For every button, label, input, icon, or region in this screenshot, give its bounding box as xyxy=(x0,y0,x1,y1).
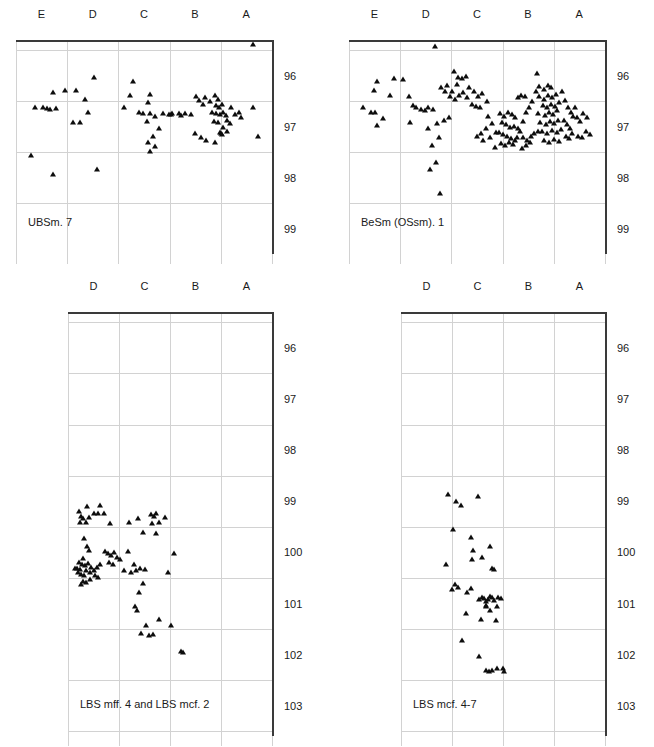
data-point-marker xyxy=(91,74,97,79)
data-point-marker xyxy=(487,135,493,140)
data-point-marker xyxy=(469,556,475,561)
column-label-a: A xyxy=(576,280,584,292)
data-point-marker xyxy=(444,82,450,87)
data-point-marker xyxy=(212,140,218,145)
gridline-horizontal xyxy=(16,152,272,153)
data-point-marker xyxy=(494,604,500,609)
data-point-marker xyxy=(255,134,261,139)
data-point-marker xyxy=(512,114,518,119)
data-point-marker xyxy=(62,87,68,92)
data-point-marker xyxy=(145,100,151,105)
y-tick-label-96: 96 xyxy=(617,342,629,354)
data-point-marker xyxy=(28,152,34,157)
data-point-marker xyxy=(85,109,91,114)
data-point-marker xyxy=(97,561,103,566)
gridline-horizontal xyxy=(401,680,605,681)
data-point-marker xyxy=(94,166,100,171)
data-point-marker xyxy=(587,131,593,136)
column-label-e: E xyxy=(38,8,46,20)
data-point-marker xyxy=(168,623,174,628)
axis-right-line xyxy=(272,40,274,254)
data-point-marker xyxy=(149,520,155,525)
data-point-marker xyxy=(138,631,144,636)
data-point-marker xyxy=(451,68,457,73)
data-point-marker xyxy=(83,519,89,524)
data-point-marker xyxy=(143,623,149,628)
data-point-marker xyxy=(140,581,146,586)
data-point-marker xyxy=(527,140,533,145)
data-point-marker xyxy=(555,117,561,122)
gridline-horizontal xyxy=(401,578,605,579)
column-label-a: A xyxy=(576,8,584,20)
data-point-marker xyxy=(165,569,171,574)
y-tick-label-99: 99 xyxy=(617,495,629,507)
y-tick-label-97: 97 xyxy=(284,121,296,133)
gridline-horizontal xyxy=(16,101,272,102)
data-point-marker xyxy=(387,93,393,98)
data-point-marker xyxy=(434,120,440,125)
gridline-horizontal xyxy=(16,203,272,204)
data-point-marker xyxy=(491,566,497,571)
data-point-marker xyxy=(477,105,483,110)
column-labels-panel-2: EDCBA xyxy=(327,0,654,34)
data-point-marker xyxy=(131,561,137,566)
data-point-marker xyxy=(534,71,540,76)
data-point-marker xyxy=(562,98,568,103)
gridline-horizontal xyxy=(349,152,605,153)
data-point-marker xyxy=(374,78,380,83)
data-point-marker xyxy=(572,105,578,110)
data-point-marker xyxy=(147,149,153,154)
data-point-marker xyxy=(73,88,79,93)
data-point-marker xyxy=(479,554,485,559)
data-point-marker xyxy=(380,115,386,120)
y-tick-label-96: 96 xyxy=(617,70,629,82)
data-point-marker xyxy=(121,105,127,110)
axis-top-line xyxy=(68,312,274,314)
gridline-horizontal xyxy=(401,527,605,528)
data-point-marker xyxy=(566,136,572,141)
data-point-marker xyxy=(436,135,442,140)
data-point-marker xyxy=(455,585,461,590)
data-point-marker xyxy=(446,114,452,119)
panel-caption-1: UBSm. 7 xyxy=(28,216,72,228)
data-point-marker xyxy=(140,529,146,534)
data-point-marker xyxy=(144,118,150,123)
data-point-marker xyxy=(156,519,162,524)
data-point-marker xyxy=(400,76,406,81)
data-point-marker xyxy=(130,78,136,83)
data-point-marker xyxy=(556,139,562,144)
data-point-marker xyxy=(238,114,244,119)
column-label-b: B xyxy=(524,8,532,20)
data-point-marker xyxy=(485,113,491,118)
y-tick-label-97: 97 xyxy=(284,393,296,405)
data-point-marker xyxy=(425,125,431,130)
data-point-marker xyxy=(126,519,132,524)
column-label-c: C xyxy=(473,280,481,292)
data-point-marker xyxy=(579,135,585,140)
data-point-marker xyxy=(556,100,562,105)
data-point-marker xyxy=(153,510,159,515)
data-point-marker xyxy=(156,125,162,130)
data-point-marker xyxy=(459,638,465,643)
data-point-marker xyxy=(558,126,564,131)
data-point-marker xyxy=(445,491,451,496)
data-point-marker xyxy=(498,596,504,601)
column-label-d: D xyxy=(89,8,97,20)
data-point-marker xyxy=(464,95,470,100)
data-point-marker xyxy=(153,530,159,535)
data-point-marker xyxy=(152,113,158,118)
data-point-marker xyxy=(470,547,476,552)
data-point-marker xyxy=(535,110,541,115)
panel-caption-2: BeSm (OSsm). 1 xyxy=(361,216,444,228)
y-tick-label-98: 98 xyxy=(284,172,296,184)
data-point-marker xyxy=(134,607,140,612)
column-label-c: C xyxy=(473,8,481,20)
data-point-marker xyxy=(50,172,56,177)
data-point-marker xyxy=(553,91,559,96)
data-point-marker xyxy=(95,510,101,515)
data-point-marker xyxy=(142,566,148,571)
panel-ubsm-7: EDCBA 96979899 UBSm. 7 xyxy=(0,0,327,262)
y-tick-label-102: 102 xyxy=(617,649,635,661)
data-point-marker xyxy=(203,137,209,142)
data-point-marker xyxy=(250,42,256,47)
